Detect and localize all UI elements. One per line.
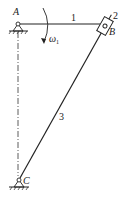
label-link-2: 2 <box>113 10 118 21</box>
label-link-3: 3 <box>59 111 64 122</box>
label-joint-b: B <box>109 26 115 37</box>
label-link-1: 1 <box>71 12 76 23</box>
link-3 <box>20 28 104 178</box>
label-joint-c: C <box>23 175 30 186</box>
label-joint-a: A <box>12 6 20 17</box>
mechanism-diagram: A B C 1 2 3 ω1 <box>0 0 125 204</box>
label-omega: ω1 <box>49 33 59 45</box>
angular-velocity-arrow-icon <box>41 8 48 44</box>
